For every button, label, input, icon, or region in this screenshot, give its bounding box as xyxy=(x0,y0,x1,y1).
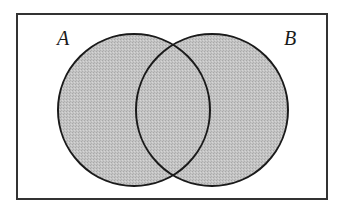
set-a-label: A xyxy=(55,27,70,49)
shaded-union xyxy=(58,34,288,186)
venn-diagram: A B xyxy=(0,0,344,210)
set-b-label: B xyxy=(284,27,296,49)
